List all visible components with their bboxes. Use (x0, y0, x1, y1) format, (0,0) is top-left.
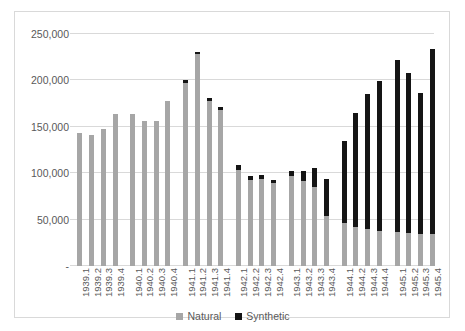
bar-segment-natural (77, 133, 82, 266)
bar-segment-natural (218, 110, 223, 266)
bar-1939.3 (101, 129, 106, 266)
x-axis-tick-label: 1944.3 (371, 268, 377, 297)
bar-segment-synthetic (395, 60, 400, 232)
bar-segment-natural (183, 83, 188, 266)
bar-segment-natural (195, 54, 200, 266)
bar-1944.4 (377, 81, 382, 266)
bar-segment-natural (207, 101, 212, 266)
x-axis-tick-label: 1942.3 (265, 268, 271, 297)
bar-1941.4 (218, 107, 223, 266)
bar-segment-natural (165, 101, 170, 266)
bar-segment-natural (101, 129, 106, 266)
bar-segment-synthetic (312, 168, 317, 187)
legend-swatch-icon (176, 313, 183, 320)
bar-segment-natural (113, 114, 118, 266)
x-axis-tick-label: 1945.4 (435, 268, 441, 297)
bar-segment-synthetic (353, 113, 358, 227)
bar-1945.4 (430, 49, 435, 266)
bar-1940.1 (130, 114, 135, 266)
bar-segment-synthetic (377, 81, 382, 230)
legend-item-synthetic[interactable]: Synthetic (235, 310, 289, 322)
bar-1942.2 (248, 176, 253, 266)
bar-1945.3 (418, 93, 423, 266)
bar-1944.1 (342, 141, 347, 266)
legend-label: Natural (187, 310, 221, 322)
x-axis-tick-label: 1944.4 (382, 268, 388, 297)
bar-segment-natural (395, 232, 400, 266)
bar-segment-synthetic (324, 179, 329, 216)
y-axis-tick-label: 150,000 (9, 122, 69, 132)
bar-1945.2 (406, 73, 411, 266)
bar-1944.3 (365, 94, 370, 266)
bar-segment-natural (342, 223, 347, 266)
bar-segment-natural (154, 121, 159, 266)
legend-swatch-icon (235, 313, 242, 320)
bar-segment-natural (248, 180, 253, 266)
x-axis-tick-label: 1941.2 (200, 268, 206, 297)
x-axis-tick-label: 1943.3 (318, 268, 324, 297)
x-axis-tick-label: 1944.1 (347, 268, 353, 297)
x-axis-tick-label: 1939.3 (106, 268, 112, 297)
bar-1943.4 (324, 179, 329, 266)
bar-1942.3 (259, 175, 264, 266)
bar-1941.2 (195, 52, 200, 266)
bar-1943.3 (312, 168, 317, 266)
y-axis-tick-label: 250,000 (9, 29, 69, 39)
bar-segment-natural (430, 234, 435, 266)
bar-1940.4 (165, 101, 170, 266)
bar-segment-natural (324, 216, 329, 266)
bar-segment-natural (259, 179, 264, 266)
bar-1943.1 (289, 171, 294, 266)
y-axis-tick-label: - (9, 261, 69, 271)
bar-segment-synthetic (406, 73, 411, 233)
bar-segment-natural (289, 176, 294, 266)
x-axis-tick-label: 1941.4 (224, 268, 230, 297)
x-axis-tick-label: 1943.1 (294, 268, 300, 297)
bar-segment-natural (236, 170, 241, 267)
legend-label: Synthetic (246, 310, 289, 322)
bar-segment-natural (301, 181, 306, 266)
bar-1942.4 (271, 180, 276, 266)
x-axis-tick-label: 1939.2 (95, 268, 101, 297)
bar-segment-synthetic (365, 94, 370, 229)
chart-container: 250,000200,000150,000100,00050,000- 1939… (14, 11, 450, 318)
x-axis-tick-label: 1942.4 (277, 268, 283, 297)
bar-segment-natural (377, 231, 382, 266)
y-axis-tick-label: 100,000 (9, 168, 69, 178)
bar-segment-synthetic (301, 171, 306, 180)
y-axis-tick-label: 50,000 (9, 215, 69, 225)
bar-segment-natural (142, 121, 147, 266)
bar-segment-natural (365, 229, 370, 266)
bar-segment-synthetic (342, 141, 347, 224)
y-axis-tick-label: 200,000 (9, 75, 69, 85)
x-axis-tick-label: 1940.1 (136, 268, 142, 297)
bar-1941.1 (183, 80, 188, 266)
bar-1940.2 (142, 121, 147, 266)
x-axis-tick-label: 1943.2 (306, 268, 312, 297)
bar-segment-natural (130, 114, 135, 266)
x-axis-tick-label: 1940.3 (159, 268, 165, 297)
bar-segment-natural (353, 227, 358, 266)
bar-1939.1 (77, 133, 82, 266)
legend-item-natural[interactable]: Natural (176, 310, 221, 322)
bar-1939.2 (89, 135, 94, 266)
x-axis-tick-label: 1939.1 (83, 268, 89, 297)
x-axis-tick-label: 1940.4 (171, 268, 177, 297)
bar-1945.1 (395, 60, 400, 266)
bar-segment-natural (312, 187, 317, 266)
bar-segment-natural (406, 233, 411, 266)
bar-1939.4 (113, 114, 118, 266)
bar-segment-synthetic (418, 93, 423, 233)
x-axis-tick-label: 1943.4 (329, 268, 335, 297)
bar-segment-natural (89, 135, 94, 266)
bar-segment-synthetic (430, 49, 435, 235)
bar-1942.1 (236, 165, 241, 266)
bar-segment-natural (418, 234, 423, 266)
y-axis: 250,000200,000150,000100,00050,000- (7, 34, 69, 266)
x-axis-tick-label: 1939.4 (118, 268, 124, 297)
bar-1944.2 (353, 113, 358, 266)
bar-segment-natural (271, 183, 276, 266)
bar-1943.2 (301, 171, 306, 266)
x-axis-tick-label: 1945.3 (423, 268, 429, 297)
x-axis-tick-label: 1942.2 (253, 268, 259, 297)
